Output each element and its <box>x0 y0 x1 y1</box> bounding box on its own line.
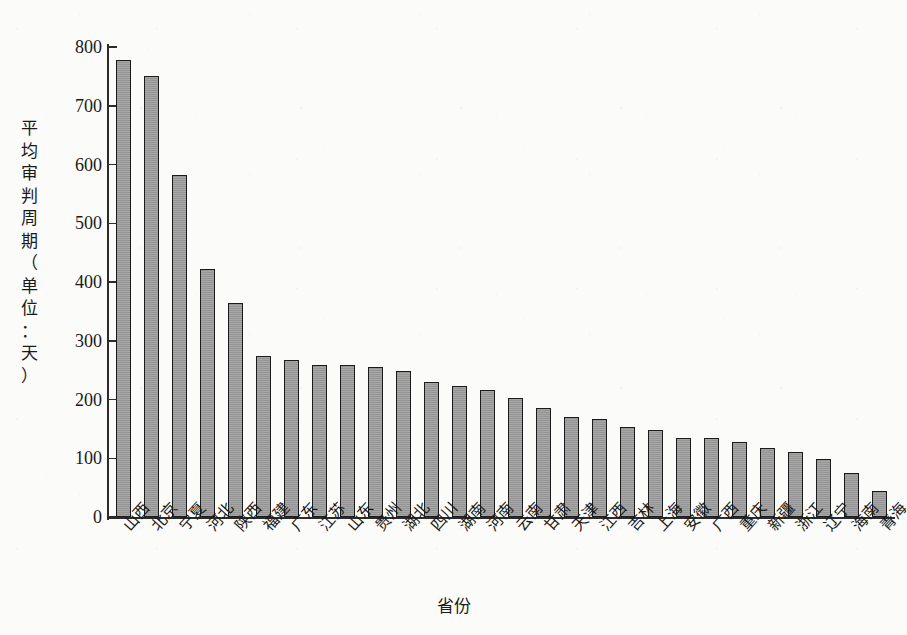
bar <box>480 390 495 517</box>
bar <box>312 365 327 517</box>
y-tick-label: 0 <box>56 508 102 526</box>
y-tick-label: 400 <box>56 273 102 291</box>
bar-chart: 平 均 审 判 周 期 （ 单 位 ： 天 ） 8007006005004003… <box>0 0 907 635</box>
bar <box>228 303 243 517</box>
x-axis-title: 省份 <box>0 592 907 617</box>
bar <box>536 408 551 517</box>
y-tick-label: 700 <box>56 97 102 115</box>
bar <box>340 365 355 517</box>
y-tick-label: 300 <box>56 332 102 350</box>
y-tick-label: 800 <box>56 38 102 56</box>
bar <box>368 367 383 517</box>
bar <box>396 371 411 517</box>
y-axis-title: 平 均 审 判 周 期 （ 单 位 ： 天 ） <box>14 118 44 388</box>
y-tick-label: 500 <box>56 214 102 232</box>
plot-area <box>108 47 893 517</box>
y-tick-label: 200 <box>56 391 102 409</box>
bar <box>424 382 439 517</box>
x-axis-tick-labels: 山西北京宁夏河北陕西福建广东江苏山东贵州湖北四川湖南河南云南甘肃天津江西吉林上海… <box>108 519 893 589</box>
y-tick-label: 100 <box>56 449 102 467</box>
bar <box>200 269 215 517</box>
bar <box>592 419 607 517</box>
bar <box>284 360 299 517</box>
bar <box>116 60 131 517</box>
bar <box>508 398 523 517</box>
bar <box>564 417 579 517</box>
bar <box>144 76 159 517</box>
bar <box>452 386 467 517</box>
y-tick-label: 600 <box>56 156 102 174</box>
bar <box>256 356 271 517</box>
bar <box>172 175 187 517</box>
